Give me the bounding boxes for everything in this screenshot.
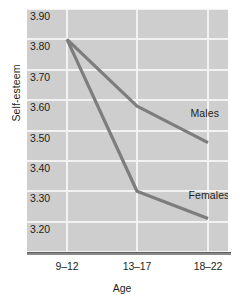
series-line-females — [67, 39, 208, 218]
series-label-females: Females — [189, 190, 229, 201]
series-lines — [27, 9, 228, 252]
x-tick-label: 13–17 — [107, 260, 167, 272]
y-axis-title: Self-esteem — [9, 33, 23, 153]
plot-area: 3.903.803.703.603.503.403.303.203.10 Mal… — [27, 9, 228, 252]
line-chart: Self-esteem 3.903.803.703.603.503.403.30… — [0, 0, 244, 301]
x-axis-line — [27, 252, 231, 255]
x-tick-label: 9–12 — [37, 260, 97, 272]
x-axis-title: Age — [0, 282, 244, 294]
series-line-males — [67, 39, 208, 142]
series-label-males: Males — [191, 108, 220, 119]
x-tick-label: 18–22 — [178, 260, 238, 272]
